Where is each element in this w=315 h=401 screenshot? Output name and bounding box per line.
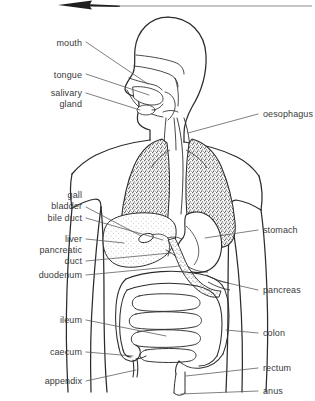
label-duodenum: duodenum xyxy=(9,270,82,281)
rectum-anus xyxy=(174,372,185,395)
label-appendix: appendix xyxy=(10,376,82,387)
label-stomach-text: stomach xyxy=(263,225,298,235)
label-stomach: stomach xyxy=(263,225,298,236)
leader-anus xyxy=(181,391,258,394)
label-bile-duct-line1: bile duct xyxy=(48,213,82,223)
label-liver-line1: liver xyxy=(65,234,82,244)
label-liver: liver xyxy=(13,234,82,245)
label-mouth-line1: mouth xyxy=(56,38,82,48)
label-ileum-line1: ileum xyxy=(60,315,82,325)
label-colon-text: colon xyxy=(263,328,285,338)
label-pancreas-text: pancreas xyxy=(263,285,301,295)
colon xyxy=(116,271,229,377)
label-pancreatic-duct: pancreatic duct xyxy=(9,245,82,266)
leader-mouth xyxy=(86,42,148,84)
leader-tongue xyxy=(86,74,149,95)
label-mouth: mouth xyxy=(20,38,82,49)
label-ileum: ileum xyxy=(14,315,82,326)
leader-caecum xyxy=(86,352,133,356)
label-gall-bladder-line1: gall xyxy=(68,190,82,200)
diagram-page: mouth tongue salivary gland gall bladder… xyxy=(0,0,315,401)
label-pancreas: pancreas xyxy=(263,285,301,296)
leader-rectum xyxy=(186,368,258,376)
leader-appendix xyxy=(86,370,136,381)
label-tongue-line1: tongue xyxy=(54,70,82,80)
label-duodenum-line1: duodenum xyxy=(39,270,82,280)
leader-oesophagus xyxy=(188,114,258,133)
label-caecum: caecum xyxy=(14,347,82,358)
label-gall-bladder: gall bladder xyxy=(18,190,82,211)
scroll-up-arrow[interactable] xyxy=(58,1,312,10)
label-gall-bladder-line2: bladder xyxy=(18,201,82,212)
label-rectum: rectum xyxy=(263,363,291,374)
label-pancreatic-duct-line2: duct xyxy=(9,256,82,267)
label-anus: anus xyxy=(263,386,283,397)
label-salivary-gland: salivary gland xyxy=(18,88,82,109)
label-colon: colon xyxy=(263,328,285,339)
label-pancreatic-duct-line1: pancreatic xyxy=(39,245,82,255)
label-oesophagus-text: oesophagus xyxy=(263,109,313,119)
leader-ileum xyxy=(86,320,166,336)
label-oesophagus: oesophagus xyxy=(263,109,313,120)
mouth-pharynx-detail xyxy=(127,55,184,150)
label-rectum-text: rectum xyxy=(263,363,291,373)
label-salivary-gland-line2: gland xyxy=(18,99,82,110)
label-caecum-line1: caecum xyxy=(50,347,82,357)
label-anus-text: anus xyxy=(263,386,283,396)
label-appendix-line1: appendix xyxy=(45,376,82,386)
label-salivary-gland-line1: salivary xyxy=(51,88,82,98)
label-tongue: tongue xyxy=(18,70,82,81)
label-bile-duct: bile duct xyxy=(13,213,82,224)
